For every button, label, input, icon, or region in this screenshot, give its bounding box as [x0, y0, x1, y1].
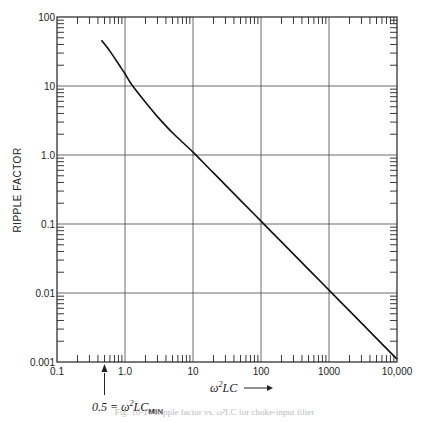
ripple-factor-chart: 0.11.010100100010,000 0.0010.010.11.0101…	[0, 0, 429, 422]
y-tick-label: 0.001	[30, 357, 55, 368]
y-tick-label: 0.01	[36, 288, 56, 299]
y-tick-label: 0.1	[41, 219, 55, 230]
x-tick-label: 100	[253, 366, 270, 377]
x-axis-title-text: ω2LC	[210, 380, 238, 395]
x-tick-label: 1.0	[118, 366, 132, 377]
annotation-arrow-head	[102, 364, 108, 372]
y-axis-title: RIPPLE FACTOR	[12, 147, 23, 232]
axis-ticks	[57, 17, 397, 362]
grid-lines	[57, 17, 397, 362]
x-tick-label: 10,000	[382, 366, 413, 377]
x-axis-title: ω2LC	[210, 380, 273, 395]
figure-caption: Fig. 10-10 Ripple factor vs. ω²LC for ch…	[0, 407, 429, 417]
ripple-curve	[101, 40, 397, 359]
y-tick-labels: 0.0010.010.11.010100	[30, 12, 55, 368]
y-tick-label: 10	[44, 81, 56, 92]
x-tick-label: 10	[187, 366, 199, 377]
plot-frame	[57, 17, 397, 362]
x-axis-arrow-head	[267, 385, 273, 391]
y-tick-label: 100	[38, 12, 55, 23]
y-tick-label: 1.0	[41, 150, 55, 161]
x-tick-label: 1000	[318, 366, 341, 377]
